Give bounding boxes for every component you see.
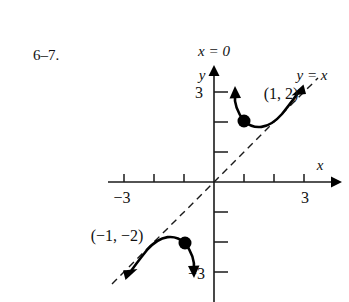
problem-number-label: 6–7.	[33, 47, 59, 63]
point-marker-1-2	[238, 115, 251, 128]
x-axis-tick-label-positive-3: 3	[301, 189, 309, 206]
figure-background	[0, 0, 349, 302]
y-axis-tick-label-positive-3: 3	[195, 84, 203, 101]
asymptote-y-equals-x-label: y = x	[295, 67, 328, 83]
x-axis-tick-label-negative-3: −3	[113, 189, 130, 206]
point-label-1-2: (1, 2)	[264, 85, 299, 103]
point-label-minus1-minus2: (−1, −2)	[91, 227, 144, 245]
phase-portrait-figure: 6–7. −3 3 3 −3 x y x = 0	[0, 0, 349, 302]
y-axis-name-label: y	[197, 67, 206, 83]
phase-portrait-svg: 6–7. −3 3 3 −3 x y x = 0	[0, 0, 349, 302]
nullcline-x-equals-zero-label: x = 0	[197, 43, 230, 59]
x-axis-name-label: x	[316, 157, 324, 173]
point-marker-minus1-minus2	[179, 237, 192, 250]
